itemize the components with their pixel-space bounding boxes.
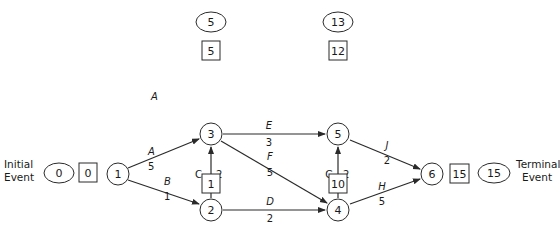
terminal-late-value: 15	[487, 167, 501, 180]
edge-D-label: D	[266, 196, 274, 207]
edge-A	[128, 139, 199, 168]
terminal-event-label-line1: Terminal	[515, 158, 560, 170]
edge-F-duration: 5	[267, 167, 273, 178]
node-2: 2	[200, 199, 222, 221]
edge-F	[221, 141, 327, 203]
edge-D-duration: 2	[267, 213, 273, 224]
edge-B-label: B	[164, 176, 171, 187]
edge-F-label: F	[267, 151, 273, 162]
initial-early-value: 0	[85, 167, 92, 180]
edge-E-duration: 3	[266, 137, 272, 148]
edge-H-label: H	[378, 181, 386, 192]
edge-A-name: A	[150, 91, 158, 102]
node-2-early-value: 1	[208, 178, 215, 191]
edge-A-duration: 5	[148, 161, 154, 172]
node-3-early-value: 5	[208, 45, 215, 58]
network-diagram: Initial Event 0 0 A A 5 B 1 C 2 D 2 E 3 …	[0, 0, 560, 230]
node-5-late-value: 13	[331, 16, 345, 29]
edge-A-label: A	[147, 146, 155, 157]
node-2-label: 2	[208, 204, 215, 217]
terminal-event-label-line2: Event	[522, 171, 552, 183]
edge-B-duration: 1	[164, 191, 170, 202]
node-4: 4	[327, 199, 349, 221]
node-6-label: 6	[429, 168, 436, 181]
terminal-early-value: 15	[453, 168, 467, 181]
initial-late-value: 0	[56, 167, 63, 180]
initial-event-label-line2: Event	[4, 171, 34, 183]
node-3: 3	[200, 123, 222, 145]
edge-J-label: J	[384, 140, 389, 151]
initial-event-label-line1: Initial	[4, 158, 33, 170]
edge-labels: A 5 B 1 C 2 D 2 E 3 F 5 G 2 H 5 J 2	[147, 120, 390, 224]
node-5: 5	[327, 123, 349, 145]
node-6: 6	[421, 163, 443, 185]
node-4-early-value: 10	[331, 178, 345, 191]
node-5-label: 5	[335, 128, 342, 141]
node-5-early-value: 12	[331, 45, 345, 58]
node-3-late-value: 5	[208, 16, 215, 29]
node-1-label: 1	[115, 168, 122, 181]
node-3-label: 3	[208, 128, 215, 141]
edge-H-duration: 5	[379, 196, 385, 207]
node-4-label: 4	[335, 204, 342, 217]
edge-E-label: E	[266, 120, 273, 131]
edge-C-label: C	[195, 169, 202, 180]
edge-J-duration: 2	[384, 155, 390, 166]
node-1: 1	[107, 163, 129, 185]
